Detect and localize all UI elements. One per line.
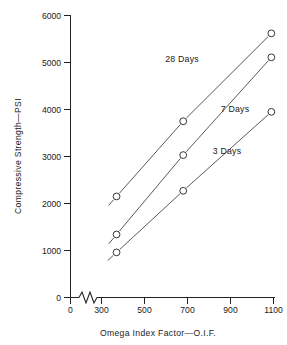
series-line-segment — [120, 125, 181, 193]
y-axis: 6000 5000 4000 3000 2000 1000 0 Compress… — [13, 11, 71, 303]
series-3-days — [108, 108, 275, 260]
data-point-marker — [268, 54, 275, 61]
x-tick-label-500: 500 — [137, 305, 152, 315]
x-axis: 0 300 500 700 900 1100 Omega Index Facto… — [68, 292, 283, 338]
data-point-marker — [180, 152, 187, 159]
y-tick-label-0: 0 — [56, 293, 61, 303]
x-axis-break-zigzag — [79, 292, 101, 303]
x-tick-label-0: 0 — [68, 305, 73, 315]
series-layer — [108, 30, 275, 261]
x-tick-label-900: 900 — [223, 305, 238, 315]
series-line-tail — [109, 200, 114, 206]
data-point-marker — [180, 187, 187, 194]
series-7-days — [109, 54, 275, 244]
data-point-marker — [180, 118, 187, 125]
y-tick-label-2000: 2000 — [42, 199, 61, 209]
series-line-tail — [109, 238, 114, 244]
line-chart-svg: 6000 5000 4000 3000 2000 1000 0 Compress… — [0, 0, 287, 345]
data-point-marker — [113, 249, 120, 256]
y-tick-label-3000: 3000 — [42, 152, 61, 162]
data-point-marker — [113, 231, 120, 238]
chart-figure: 6000 5000 4000 3000 2000 1000 0 Compress… — [0, 0, 287, 345]
series-label-3-days: 3 Days — [213, 146, 242, 156]
y-tick-label-4000: 4000 — [42, 105, 61, 115]
x-tick-label-1100: 1100 — [264, 305, 283, 315]
x-axis-title: Omega Index Factor—O.I.F. — [100, 328, 216, 338]
series-line-segment — [120, 194, 180, 249]
series-label-28-days: 28 Days — [165, 54, 199, 64]
y-axis-title: Compressive Strength—PSI — [13, 98, 23, 214]
y-tick-label-1000: 1000 — [42, 246, 61, 256]
series-annotations: 28 Days 7 Days 3 Days — [165, 54, 250, 156]
data-point-marker — [268, 108, 275, 115]
x-tick-label-700: 700 — [180, 305, 195, 315]
series-line-tail — [108, 255, 114, 260]
series-label-7-days: 7 Days — [221, 104, 250, 114]
series-line-segment — [119, 159, 180, 232]
data-point-marker — [268, 30, 275, 37]
x-tick-label-300: 300 — [94, 305, 109, 315]
data-point-marker — [113, 193, 120, 200]
y-tick-label-5000: 5000 — [42, 58, 61, 68]
y-tick-label-6000: 6000 — [42, 11, 61, 21]
